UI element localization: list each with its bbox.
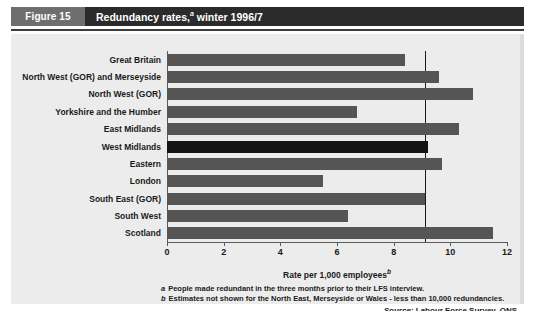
- category-label: London: [130, 176, 161, 186]
- title-underline: [11, 29, 524, 31]
- figure-root: Figure 15 Redundancy rates,a winter 1996…: [0, 0, 535, 318]
- bar-row: London: [167, 175, 507, 187]
- x-axis-tick-label: 10: [445, 247, 455, 257]
- x-axis-title-text: Rate per 1,000 employees: [283, 270, 387, 280]
- bar: [167, 106, 357, 118]
- bar: [167, 54, 405, 66]
- category-label: Yorkshire and the Humber: [55, 107, 161, 117]
- bar-row: Great Britain: [167, 54, 507, 66]
- footnote-a: aPeople made redundant in the three mont…: [161, 284, 521, 294]
- category-label: South East (GOR): [89, 194, 161, 204]
- x-axis-tick-label: 0: [164, 247, 169, 257]
- bar: [167, 141, 428, 153]
- category-label: Great Britain: [110, 55, 162, 65]
- bar-row: East Midlands: [167, 123, 507, 135]
- category-label: North West (GOR) and Merseyside: [22, 72, 161, 82]
- bar-row: Eastern: [167, 158, 507, 170]
- bar: [167, 210, 348, 222]
- category-label: Scotland: [125, 228, 161, 238]
- bar-row: West Midlands: [167, 141, 507, 153]
- bar-row: South West: [167, 210, 507, 222]
- x-axis-tick-label: 6: [334, 247, 339, 257]
- bar: [167, 227, 493, 239]
- x-axis-tick-mark: [167, 242, 168, 246]
- x-axis-tick-label: 8: [391, 247, 396, 257]
- category-label: North West (GOR): [88, 89, 161, 99]
- plot-area: Great BritainNorth West (GOR) and Mersey…: [167, 51, 507, 242]
- x-axis-ticks: 024681012: [167, 242, 507, 264]
- panel-right-edge: [520, 34, 524, 304]
- bar: [167, 175, 323, 187]
- figure-number-label: Figure 15: [25, 11, 70, 22]
- bar-row: Yorkshire and the Humber: [167, 106, 507, 118]
- footnote-b: bEstimates not shown for the North East,…: [161, 294, 521, 304]
- bar: [167, 71, 439, 83]
- x-axis-title-footnote-marker: b: [387, 268, 391, 275]
- bar: [167, 193, 425, 205]
- x-axis-tick-mark: [224, 242, 225, 246]
- bar-rows: Great BritainNorth West (GOR) and Mersey…: [167, 51, 507, 242]
- bar-row: South East (GOR): [167, 193, 507, 205]
- chart-panel: Great BritainNorth West (GOR) and Mersey…: [11, 34, 524, 304]
- footnote-a-text: People made redundant in the three month…: [168, 284, 424, 293]
- x-axis-tick-mark: [337, 242, 338, 246]
- bar: [167, 88, 473, 100]
- x-axis-tick-mark: [394, 242, 395, 246]
- category-label: Eastern: [130, 159, 161, 169]
- x-axis-tick-mark: [280, 242, 281, 246]
- figure-title-bar: Figure 15 Redundancy rates,a winter 1996…: [11, 7, 524, 26]
- footnote-b-text: Estimates not shown for the North East, …: [169, 294, 505, 303]
- x-axis-tick-mark: [450, 242, 451, 246]
- x-axis-tick-label: 2: [221, 247, 226, 257]
- footnote-a-marker: a: [161, 284, 165, 293]
- bar-row: Scotland: [167, 227, 507, 239]
- x-axis-tick-mark: [507, 242, 508, 246]
- x-axis-title: Rate per 1,000 employeesb: [167, 268, 507, 280]
- category-label: South West: [114, 211, 161, 221]
- figure-number-tag: Figure 15: [11, 7, 85, 26]
- footnote-b-marker: b: [161, 294, 166, 303]
- x-axis-tick-label: 12: [502, 247, 512, 257]
- page-bottom-edge: [0, 311, 535, 318]
- category-label: West Midlands: [102, 142, 161, 152]
- bar-row: North West (GOR) and Merseyside: [167, 71, 507, 83]
- figure-title-tail: winter 1996/7: [194, 11, 263, 23]
- bar: [167, 158, 442, 170]
- bar-row: North West (GOR): [167, 88, 507, 100]
- figure-title: Redundancy rates,a winter 1996/7: [96, 10, 263, 23]
- bar: [167, 123, 459, 135]
- x-axis-tick-label: 4: [278, 247, 283, 257]
- category-label: East Midlands: [104, 124, 161, 134]
- figure-title-text: Redundancy rates,: [96, 11, 190, 23]
